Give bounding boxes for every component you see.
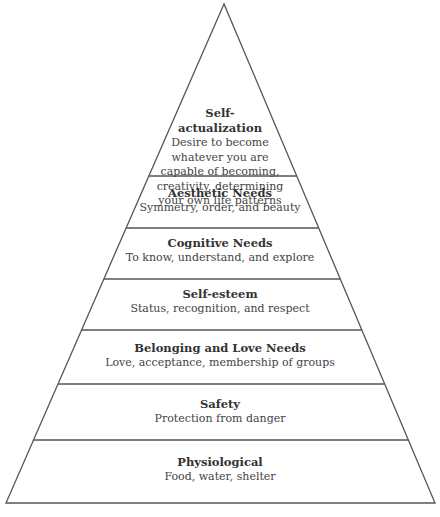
level-title: Cognitive Needs xyxy=(0,236,440,251)
level-title: Belonging and Love Needs xyxy=(0,341,440,356)
level-physiological: Physiological Food, water, shelter xyxy=(0,455,440,485)
level-title: Self- xyxy=(0,106,440,121)
level-aesthetic-needs: Aesthetic Needs Symmetry, order, and bea… xyxy=(0,186,440,216)
level-title: Self-esteem xyxy=(0,287,440,302)
level-description: Food, water, shelter xyxy=(0,470,440,485)
level-title: Physiological xyxy=(0,455,440,470)
level-belonging-love: Belonging and Love Needs Love, acceptanc… xyxy=(0,341,440,371)
level-description: Status, recognition, and respect xyxy=(0,302,440,317)
level-self-esteem: Self-esteem Status, recognition, and res… xyxy=(0,287,440,317)
level-title: actualization xyxy=(0,121,440,136)
level-title: Safety xyxy=(0,397,440,412)
level-safety: Safety Protection from danger xyxy=(0,397,440,427)
level-description: capable of becoming, xyxy=(0,165,440,180)
level-description: Symmetry, order, and beauty xyxy=(0,201,440,216)
level-description: whatever you are xyxy=(0,151,440,166)
level-title: Aesthetic Needs xyxy=(0,186,440,201)
level-description: Protection from danger xyxy=(0,412,440,427)
level-description: Desire to become xyxy=(0,136,440,151)
level-description: Love, acceptance, membership of groups xyxy=(0,356,440,371)
level-cognitive-needs: Cognitive Needs To know, understand, and… xyxy=(0,236,440,266)
level-description: To know, understand, and explore xyxy=(0,251,440,266)
